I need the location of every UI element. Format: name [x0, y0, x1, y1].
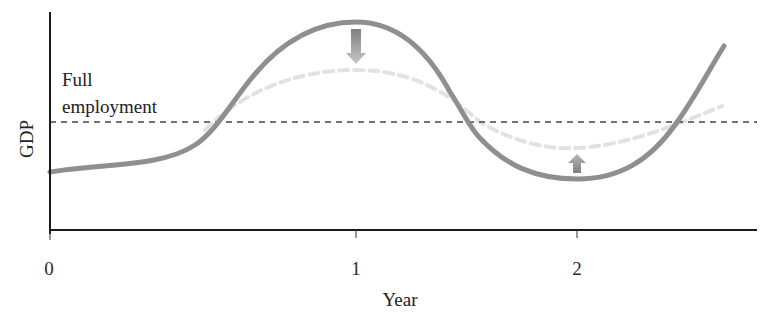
- x-tick-label-1: 1: [351, 258, 361, 280]
- x-axis-label: Year: [382, 289, 417, 311]
- x-tick-label-2: 2: [572, 258, 582, 280]
- up-arrow-icon: [568, 154, 586, 173]
- x-tick-label-0: 0: [44, 258, 54, 280]
- annotation-line-2: employment: [62, 93, 157, 120]
- down-arrow-icon: [346, 29, 366, 64]
- annotation-line-1: Full: [62, 66, 157, 93]
- business-cycle-chart: GDP Full employment 0 1 2 Year: [0, 0, 770, 325]
- chart-canvas: [0, 0, 770, 325]
- full-employment-annotation: Full employment: [62, 66, 157, 120]
- stabilized-gdp-curve: [205, 70, 722, 148]
- y-axis-label: GDP: [16, 114, 38, 164]
